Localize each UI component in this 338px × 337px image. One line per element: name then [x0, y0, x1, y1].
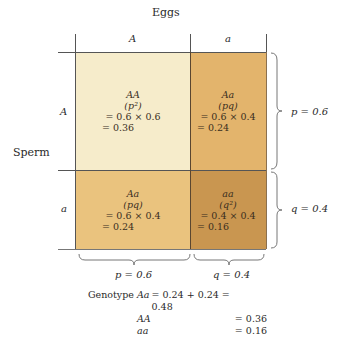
genotype-value: = 0.36 — [175, 313, 267, 325]
row-freq-q: q = 0.4 — [291, 203, 328, 214]
row-freq-q-text: q = 0.4 — [291, 203, 328, 214]
cell-product: = 0.6 × 0.4 — [200, 111, 255, 122]
cell-genotype: Aa — [127, 188, 140, 199]
genotype-value: = 0.16 — [175, 325, 267, 337]
cell-product: = 0.4 × 0.4 — [200, 210, 255, 221]
cell-product: = 0.6 × 0.4 — [105, 210, 160, 221]
right-brace-bottom-icon — [270, 171, 286, 249]
genotype-label: Genotype — [88, 289, 137, 313]
genotype-spacer — [88, 313, 137, 325]
cell-product: = 0.6 × 0.6 — [105, 111, 160, 122]
cell-formula: (pq) — [123, 199, 143, 210]
header-divider-right — [266, 34, 267, 52]
genotype-name: aa — [137, 325, 175, 337]
cell-formula: (q²) — [219, 199, 236, 210]
column-header-a: a — [225, 33, 231, 44]
sperm-label: Sperm — [13, 146, 50, 159]
grid-line-top — [58, 52, 266, 53]
eggs-title: Eggs — [152, 6, 180, 19]
cell-formula: (pq) — [218, 100, 238, 111]
grid-line-left — [75, 52, 76, 249]
genotype-row-AA: AA = 0.36 — [88, 313, 267, 325]
cell-genotype: Aa — [222, 89, 235, 100]
cell-result: = 0.16 — [197, 221, 259, 232]
right-brace-top-icon — [270, 52, 286, 170]
cell-genotype: aa — [222, 188, 233, 199]
grid-line-bottom — [58, 249, 266, 250]
row-freq-p-text: p = 0.6 — [291, 106, 328, 117]
grid-line-center — [190, 52, 191, 249]
punnett-cell-aa: aa (q²) = 0.4 × 0.4 = 0.16 — [190, 170, 266, 249]
genotype-summary: Genotype Aa = 0.24 + 0.24 = 0.48 AA = 0.… — [88, 289, 267, 337]
genotype-value: = 0.24 + 0.24 = 0.48 — [152, 289, 248, 313]
row-header-A: A — [60, 106, 67, 117]
cell-formula: (p²) — [124, 100, 141, 111]
bottom-brace-right-icon — [193, 253, 269, 267]
genotype-spacer — [88, 325, 137, 337]
cell-result: = 0.24 — [197, 122, 259, 133]
grid-line-middle — [58, 170, 266, 171]
row-header-a: a — [61, 203, 67, 214]
punnett-cell-AA: AA (p²) = 0.6 × 0.6 = 0.36 — [76, 52, 190, 170]
column-freq-q: q = 0.4 — [213, 269, 250, 280]
punnett-cell-Aa-bottom: Aa (pq) = 0.6 × 0.4 = 0.24 — [76, 170, 190, 249]
cell-result: = 0.24 — [102, 221, 164, 232]
genotype-name: Aa — [137, 289, 150, 313]
cell-result: = 0.36 — [102, 122, 164, 133]
grid-line-right — [266, 52, 267, 249]
genotype-name: AA — [137, 313, 175, 325]
genotype-row-Aa: Genotype Aa = 0.24 + 0.24 = 0.48 — [88, 289, 267, 313]
bottom-brace-left-icon — [78, 253, 192, 267]
header-divider-left — [75, 34, 76, 52]
column-freq-p: p = 0.6 — [115, 269, 152, 280]
cell-genotype: AA — [126, 89, 140, 100]
row-freq-p: p = 0.6 — [291, 106, 328, 117]
column-header-A: A — [129, 33, 136, 44]
header-divider-middle — [190, 34, 191, 52]
genotype-row-aa: aa = 0.16 — [88, 325, 267, 337]
punnett-cell-Aa-top: Aa (pq) = 0.6 × 0.4 = 0.24 — [190, 52, 266, 170]
